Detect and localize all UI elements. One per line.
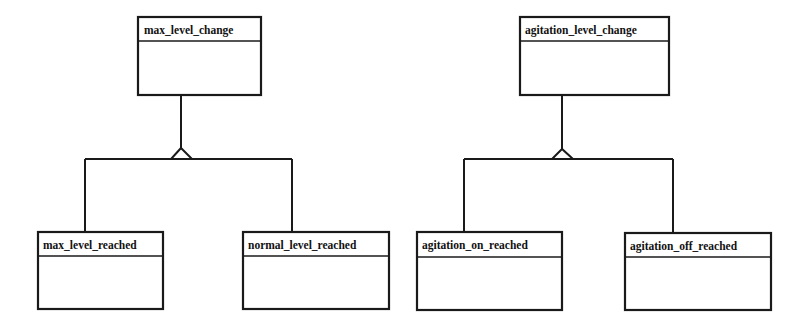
class-name-label: normal_level_reached <box>248 239 357 251</box>
class-box-agitation-on-reached[interactable]: agitation_on_reached <box>417 232 562 310</box>
class-name-label: max_level_change <box>144 24 233 37</box>
class-name-label: agitation_level_change <box>525 24 637 37</box>
class-name-label: agitation_on_reached <box>422 239 528 252</box>
class-name-label: agitation_off_reached <box>630 240 738 253</box>
class-box-normal-level-reached[interactable]: normal_level_reached <box>243 232 389 309</box>
hierarchy-max-level: max_level_change max_level_reached norma… <box>38 17 389 309</box>
class-box-agitation-level-change[interactable]: agitation_level_change <box>520 17 669 95</box>
hierarchy-agitation-level: agitation_level_change agitation_on_reac… <box>417 17 771 310</box>
class-box-max-level-reached[interactable]: max_level_reached <box>38 232 163 309</box>
generalization-triangle-icon <box>552 149 573 159</box>
class-diagram: max_level_change max_level_reached norma… <box>0 0 803 329</box>
class-box-max-level-change[interactable]: max_level_change <box>138 17 261 95</box>
class-name-label: max_level_reached <box>43 239 137 251</box>
class-box-agitation-off-reached[interactable]: agitation_off_reached <box>625 233 771 310</box>
generalization-triangle-icon <box>171 148 192 159</box>
